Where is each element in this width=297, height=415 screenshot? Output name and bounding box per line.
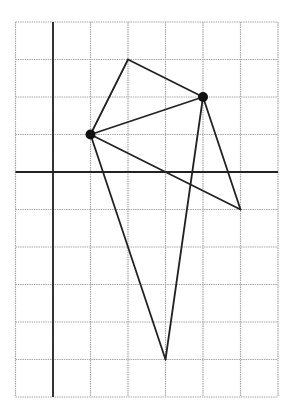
point-A: [86, 130, 96, 140]
coordinate-grid-diagram: [0, 0, 297, 415]
point-C: [198, 92, 208, 102]
segment-CE: [166, 97, 204, 360]
